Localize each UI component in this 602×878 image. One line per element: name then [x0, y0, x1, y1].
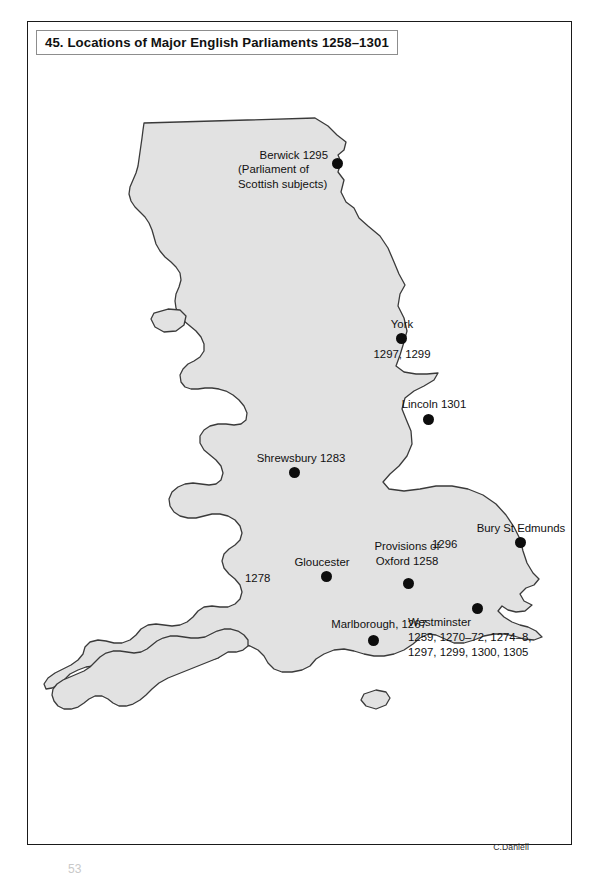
- cartographer-credit: C.Daniell: [493, 842, 529, 852]
- berwick-label-line2: (Parliament of: [238, 162, 328, 177]
- york-years: 1297, 1299: [346, 347, 458, 362]
- map-canvas: Berwick 1295 (Parliament of Scottish sub…: [28, 22, 571, 844]
- folio-page-number: 53: [68, 862, 81, 876]
- map-outline-svg: [28, 22, 571, 844]
- westminster-years-line2: 1297, 1299, 1300, 1305: [408, 645, 588, 660]
- page-title: 45. Locations of Major English Parliamen…: [45, 35, 389, 50]
- provisions-of-oxford-label-line1: Provisions of: [333, 539, 481, 554]
- bury-st-edmunds-label: Bury St Edmunds: [436, 521, 602, 536]
- bury-st-edmunds-dot[interactable]: [515, 537, 526, 548]
- anglesey-island-path: [151, 309, 186, 332]
- berwick-label-line1: Berwick 1295: [238, 148, 328, 163]
- gloucester-years: 1278: [245, 571, 305, 586]
- marlborough-dot[interactable]: [368, 635, 379, 646]
- lincoln-label: Lincoln 1301: [358, 397, 510, 412]
- york-dot[interactable]: [396, 333, 407, 344]
- isle-of-wight-path: [361, 690, 390, 709]
- york-label: York: [352, 317, 452, 332]
- lincoln-dot[interactable]: [423, 414, 434, 425]
- westminster-dot[interactable]: [472, 603, 483, 614]
- gloucester-dot[interactable]: [321, 571, 332, 582]
- shrewsbury-label: Shrewsbury 1283: [218, 451, 384, 466]
- provisions-of-oxford-dot[interactable]: [403, 578, 414, 589]
- provisions-of-oxford-label-line2: Oxford 1258: [333, 554, 481, 569]
- berwick-dot[interactable]: [332, 158, 343, 169]
- map-title-box: 45. Locations of Major English Parliamen…: [36, 30, 398, 55]
- westminster-years-line1: 1259, 1270–72, 1274–8,: [408, 630, 588, 645]
- westminster-label: Westminster: [408, 615, 568, 630]
- shrewsbury-dot[interactable]: [289, 467, 300, 478]
- berwick-label-line3: Scottish subjects): [238, 177, 348, 192]
